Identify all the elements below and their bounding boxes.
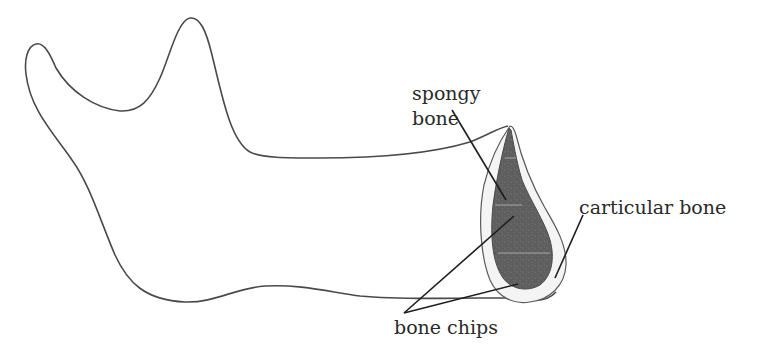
spongy-bone-label-line1: spongy bbox=[412, 82, 481, 104]
mandible-graft-diagram: spongy bone carticular bone bone chips bbox=[0, 0, 762, 354]
bone-chips-label: bone chips bbox=[394, 316, 498, 338]
spongy-bone-label-line2: bone bbox=[412, 107, 459, 129]
carticular-bone-label: carticular bone bbox=[579, 196, 726, 218]
diagram-canvas bbox=[0, 0, 762, 354]
